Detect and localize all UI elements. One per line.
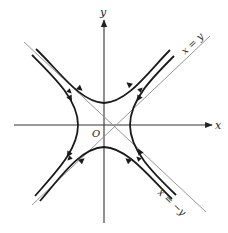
x-axis-label: x bbox=[215, 119, 222, 132]
arrow-icon bbox=[124, 80, 132, 88]
lower-hyperbola bbox=[40, 147, 172, 201]
y-axis-label: y bbox=[99, 6, 107, 19]
origin-label: O bbox=[92, 128, 100, 139]
upper-hyperbola bbox=[36, 49, 170, 103]
saddle-phase-portrait: y x O x = y x = −y bbox=[0, 0, 228, 233]
